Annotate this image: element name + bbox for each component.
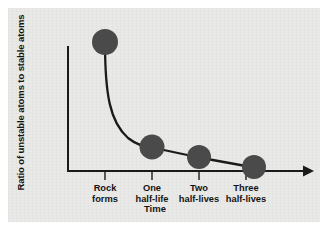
figure-container: Ratio of unstable atoms to stable atoms … [0,0,335,239]
x-axis-label: Time [0,203,310,214]
data-point-marker-2 [187,145,211,169]
data-point-marker-3 [242,155,266,179]
y-axis-label: Ratio of unstable atoms to stable atoms [15,13,26,193]
x-tick-label-3-line1: Three [212,183,280,194]
decay-curve-path [105,42,254,168]
x-tick-label-3: Three half-lives [212,183,280,204]
data-point-marker-0 [92,29,118,55]
x-axis-arrow-icon [303,166,314,177]
data-point-marker-1 [140,135,165,160]
